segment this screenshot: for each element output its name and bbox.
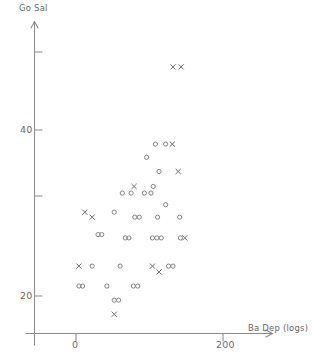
data-point-circle: [131, 284, 135, 288]
data-point-circle: [136, 284, 140, 288]
plot-canvas: [0, 0, 320, 364]
data-point-circle: [151, 184, 155, 188]
data-point-circle: [167, 264, 171, 268]
data-point-cross: [157, 270, 162, 275]
data-point-circle: [90, 264, 94, 268]
data-point-circle: [178, 215, 182, 219]
data-point-cross: [132, 184, 137, 189]
data-point-cross: [83, 210, 88, 215]
data-point-circle: [105, 284, 109, 288]
data-point-circle: [133, 215, 137, 219]
data-point-circle: [118, 264, 122, 268]
data-point-cross: [112, 312, 117, 317]
data-point-circle: [144, 155, 148, 159]
data-point-cross: [170, 142, 175, 147]
data-point-cross: [182, 236, 187, 241]
data-point-circle: [149, 191, 153, 195]
data-point-circle: [129, 191, 133, 195]
data-point-circle: [164, 203, 168, 207]
data-point-circle: [112, 298, 116, 302]
data-point-circle: [155, 215, 159, 219]
x-tick-label-0: 0: [72, 340, 78, 350]
scatter-plot-figure: Go Sal Ba Dep (logs) 40 20 0 200: [0, 0, 320, 364]
data-point-group: [77, 65, 187, 317]
data-point-circle: [155, 236, 159, 240]
data-point-cross: [77, 264, 82, 269]
y-tick-label-20: 20: [20, 291, 33, 301]
data-point-circle: [137, 215, 141, 219]
data-point-cross: [171, 65, 176, 70]
data-point-circle: [178, 236, 182, 240]
x-tick-label-200: 200: [216, 340, 235, 350]
x-axis-title: Ba Dep (logs): [248, 324, 308, 333]
data-point-cross: [176, 169, 181, 174]
data-point-circle: [153, 142, 157, 146]
data-point-circle: [117, 298, 121, 302]
data-point-circle: [150, 236, 154, 240]
data-point-circle: [159, 236, 163, 240]
data-point-cross: [179, 65, 184, 70]
y-axis: [31, 22, 42, 346]
data-point-circle: [112, 210, 116, 214]
y-tick-label-40: 40: [20, 125, 33, 135]
data-point-circle: [142, 191, 146, 195]
data-point-circle: [157, 169, 161, 173]
data-point-circle: [164, 142, 168, 146]
data-point-cross: [90, 215, 95, 220]
data-point-circle: [171, 264, 175, 268]
x-axis: [26, 330, 273, 341]
data-point-cross: [150, 264, 155, 269]
data-point-circle: [120, 191, 124, 195]
y-axis-title: Go Sal: [19, 4, 48, 13]
